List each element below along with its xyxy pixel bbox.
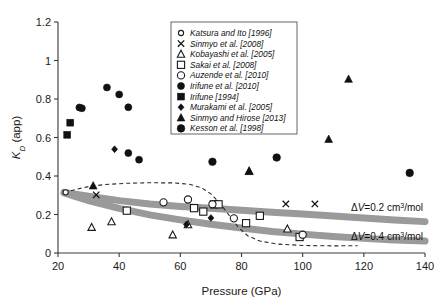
data-point	[116, 91, 123, 98]
scatter-plot: 00.20.40.60.811.220406080100120140Pressu…	[0, 0, 440, 302]
x-axis-tick-label: 100	[293, 260, 311, 272]
data-point	[242, 220, 249, 227]
data-point	[256, 212, 263, 219]
figure-container: 00.20.40.60.811.220406080100120140Pressu…	[0, 0, 440, 302]
y-axis-tick-label: 1.2	[36, 16, 51, 28]
y-axis-tick-label: 1	[45, 55, 51, 67]
curve-annotation-dV=0.4: ΔV=0.4 cm3/mol	[351, 231, 423, 243]
legend-label-5: Irifune et al. [2010]	[190, 81, 259, 91]
data-point	[103, 84, 110, 91]
y-axis-tick-label: 0.6	[36, 132, 51, 144]
data-point	[230, 215, 237, 222]
y-axis-tick-label: 0.2	[36, 209, 51, 221]
data-point	[200, 208, 207, 215]
data-point	[209, 201, 216, 208]
data-point	[160, 199, 167, 206]
data-point	[78, 105, 85, 112]
data-point	[89, 182, 97, 189]
legend-label-7: Murakami et al. [2005]	[190, 102, 273, 112]
data-point	[284, 225, 291, 232]
data-point	[123, 207, 130, 214]
legend-marker-0	[178, 30, 183, 35]
x-axis-tick-label: 20	[52, 260, 64, 272]
legend-marker-4	[177, 72, 184, 79]
y-axis-tick-label: 0	[45, 247, 51, 259]
legend-label-8: Sinmyo and Hirose [2013]	[190, 113, 286, 123]
legend-label-2: Kobayashi et al. [2005]	[190, 49, 275, 59]
legend-label-0: Katsura and Ito [1996]	[190, 28, 272, 38]
data-point	[67, 119, 74, 126]
data-point	[406, 169, 414, 177]
data-point	[125, 104, 132, 111]
legend-marker-6	[178, 93, 185, 100]
y-axis-tick-label: 0.8	[36, 93, 51, 105]
data-point	[312, 201, 318, 207]
x-axis-title: Pressure (GPa)	[202, 285, 282, 297]
x-axis-tick-label: 80	[235, 260, 247, 272]
legend-marker-5	[178, 83, 185, 90]
data-point	[299, 231, 306, 238]
data-point	[88, 223, 95, 230]
data-point	[169, 231, 176, 238]
data-point	[63, 190, 68, 195]
curve-annotation-dV=0.2: ΔV=0.2 cm3/mol	[351, 202, 423, 214]
x-axis-tick-label: 120	[355, 260, 373, 272]
data-point	[273, 154, 281, 162]
data-point	[208, 215, 214, 222]
legend-label-9: Kesson et al. [1998]	[190, 123, 264, 133]
x-axis-tick-label: 40	[113, 260, 125, 272]
data-point	[325, 135, 333, 142]
data-point	[136, 156, 143, 163]
y-axis-title: KD (app)	[10, 116, 27, 160]
legend-label-4: Auzende et al. [2010]	[189, 70, 269, 80]
data-point	[125, 150, 132, 157]
legend-label-3: Sakai et al. [2008]	[190, 60, 257, 70]
legend-marker-9	[177, 125, 185, 133]
legend-marker-3	[177, 61, 184, 68]
x-axis-tick-label: 140	[416, 260, 434, 272]
y-axis-tick-label: 0.4	[36, 170, 51, 182]
legend-label-1: Sinmyo et al. [2008]	[190, 39, 264, 49]
data-point	[345, 75, 353, 82]
data-point	[108, 218, 115, 225]
data-point	[184, 196, 191, 203]
data-point	[283, 201, 289, 207]
data-point	[190, 205, 197, 212]
data-point	[64, 131, 71, 138]
legend-label-6: Irifune [1994]	[190, 92, 239, 102]
data-point	[112, 146, 118, 153]
data-point	[245, 167, 253, 174]
x-axis-tick-label: 60	[174, 260, 186, 272]
data-point	[209, 158, 217, 166]
